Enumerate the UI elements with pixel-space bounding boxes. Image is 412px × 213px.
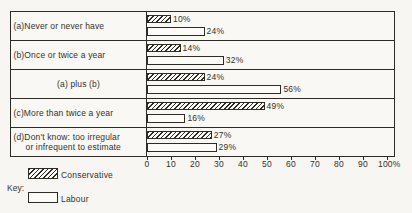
chart-frame: (a)Never or never have10%24%(b)Once or t…: [10, 11, 395, 157]
category-label-line: (c)More than twice a year: [14, 108, 147, 118]
category-label-line: (a)Never or never have: [14, 21, 147, 31]
category-label-d: (d)Don't know: too irregularor infrequen…: [11, 128, 147, 156]
conservative-bar: [147, 102, 265, 111]
category-label-b: (b)Once or twice a year: [11, 41, 147, 69]
labour-bar-line: 32%: [147, 56, 394, 65]
legend-title: Key:: [7, 183, 24, 193]
legend-label-labour: Labour: [61, 194, 89, 204]
legend-swatch-conservative-icon: [28, 168, 58, 179]
conservative-bar-line: 10%: [147, 15, 394, 24]
bar-value-label: 24%: [205, 26, 225, 36]
conservative-bar: [147, 15, 171, 24]
figure: (a)Never or never have10%24%(b)Once or t…: [0, 0, 412, 213]
bar-group-b: 14%32%: [147, 41, 394, 69]
category-label-line: (b)Once or twice a year: [14, 50, 147, 60]
legend-label-conservative: Conservative: [61, 170, 113, 180]
labour-bar-line: 24%: [147, 27, 394, 36]
labour-bar: [147, 27, 205, 36]
category-label-line: (a) plus (b): [11, 79, 146, 89]
bar-group-c: 49%16%: [147, 99, 394, 127]
bar-group-a-plus-b: 24%56%: [147, 70, 394, 98]
x-axis-tick-label: 0: [145, 159, 150, 169]
legend-swatch-labour-icon: [28, 192, 58, 203]
bar-value-label: 10%: [171, 14, 191, 24]
x-axis-tick-label: 20: [190, 159, 200, 169]
chart-row-d: (d)Don't know: too irregularor infrequen…: [11, 128, 394, 156]
bar-group-d: 27%29%: [147, 128, 394, 156]
x-axis-tick-label: 90: [358, 159, 368, 169]
x-axis-tick-label: 100%: [378, 159, 401, 169]
conservative-bar-line: 49%: [147, 102, 394, 111]
chart-row-a: (a)Never or never have10%24%: [11, 12, 394, 41]
chart-row-a-plus-b: (a) plus (b)24%56%: [11, 70, 394, 99]
bar-value-label: 29%: [217, 142, 237, 152]
conservative-bar-line: 14%: [147, 44, 394, 53]
labour-bar: [147, 56, 224, 65]
bar-value-label: 49%: [265, 101, 285, 111]
x-axis-tick-label: 70: [310, 159, 320, 169]
bar-value-label: 32%: [224, 55, 244, 65]
bar-value-label: 16%: [185, 113, 205, 123]
bar-group-a: 10%24%: [147, 12, 394, 40]
labour-bar: [147, 114, 185, 123]
bar-value-label: 27%: [212, 130, 232, 140]
bar-value-label: 14%: [181, 43, 201, 53]
x-axis-tick-label: 50: [262, 159, 272, 169]
category-label-line: or infrequent to estimate: [14, 142, 147, 152]
conservative-bar: [147, 73, 205, 82]
conservative-bar: [147, 131, 212, 140]
x-axis: 0102030405060708090100%: [147, 157, 412, 171]
x-axis-tick-label: 60: [286, 159, 296, 169]
labour-bar-line: 16%: [147, 114, 394, 123]
chart-row-c: (c)More than twice a year49%16%: [11, 99, 394, 128]
bar-value-label: 24%: [205, 72, 225, 82]
bar-value-label: 56%: [281, 84, 301, 94]
conservative-bar-line: 27%: [147, 131, 394, 140]
category-label-line: (d)Don't know: too irregular: [14, 132, 147, 142]
conservative-bar: [147, 44, 181, 53]
chart-row-b: (b)Once or twice a year14%32%: [11, 41, 394, 70]
category-label-a: (a)Never or never have: [11, 12, 147, 40]
x-axis-tick-label: 30: [214, 159, 224, 169]
category-label-a-plus-b: (a) plus (b): [11, 70, 147, 98]
x-axis-tick-label: 80: [334, 159, 344, 169]
labour-bar: [147, 143, 217, 152]
labour-bar-line: 29%: [147, 143, 394, 152]
x-axis-tick-label: 40: [238, 159, 248, 169]
category-label-c: (c)More than twice a year: [11, 99, 147, 127]
conservative-bar-line: 24%: [147, 73, 394, 82]
labour-bar: [147, 85, 281, 94]
x-axis-tick-label: 10: [166, 159, 176, 169]
labour-bar-line: 56%: [147, 85, 394, 94]
